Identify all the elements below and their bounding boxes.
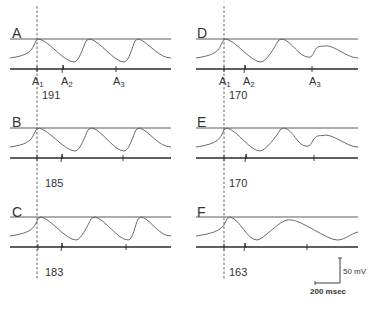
interval-value-d: 170 <box>229 90 247 101</box>
stim-label-a3-right: A3 <box>309 76 321 89</box>
interval-value-f: 163 <box>229 267 247 278</box>
stim-label-a1-left: A1 <box>32 76 44 89</box>
panel-label-e: E <box>197 115 206 129</box>
traces-canvas <box>0 0 372 310</box>
panel-label-a: A <box>12 26 21 40</box>
panel-label-b: B <box>12 115 21 129</box>
action-potential-trace-e <box>196 128 358 151</box>
stim-label-a2-right: A2 <box>243 76 255 89</box>
interval-value-c: 183 <box>45 267 63 278</box>
action-potential-trace-b <box>10 128 171 151</box>
panel-label-c: C <box>12 205 22 219</box>
interval-value-e: 170 <box>229 178 247 189</box>
scale-voltage-label: 50 mV <box>343 268 366 276</box>
action-potential-trace-c <box>10 217 171 240</box>
stim-label-a2-left: A2 <box>61 76 73 89</box>
stim-label-a1-right: A1 <box>219 76 231 89</box>
action-potential-trace-a <box>10 39 171 62</box>
scale-bar <box>315 258 340 283</box>
panel-label-f: F <box>197 205 206 219</box>
action-potential-trace-d <box>196 39 358 62</box>
interval-value-a: 191 <box>42 90 60 101</box>
action-potential-trace-f <box>196 217 358 240</box>
stim-label-a3-left: A3 <box>113 76 125 89</box>
interval-value-b: 185 <box>45 178 63 189</box>
action-potential-figure: A B C D E F A1 A2 A3 A1 A2 A3 191 185 18… <box>0 0 372 310</box>
scale-time-label: 200 msec <box>310 288 346 296</box>
panel-label-d: D <box>197 26 207 40</box>
